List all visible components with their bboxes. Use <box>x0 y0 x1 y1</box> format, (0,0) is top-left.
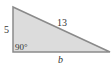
hypotenuse-label: 13 <box>57 17 67 28</box>
right-triangle-diagram: 5 13 90° b <box>0 0 112 67</box>
left-leg-label: 5 <box>4 24 9 35</box>
right-angle-label: 90° <box>15 42 28 52</box>
base-label: b <box>58 54 63 65</box>
